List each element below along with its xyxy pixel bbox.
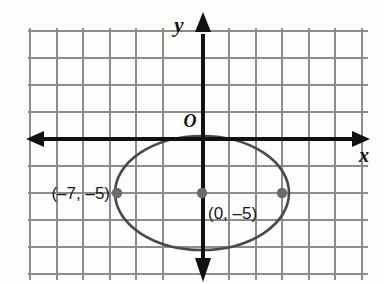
horizontal-gridlines [28,31,368,274]
axes [26,12,370,282]
y-axis-label: y [171,13,184,37]
y-axis-up-arrow-icon [195,12,211,32]
vertical-gridlines [30,28,362,280]
point-marker-left[interactable] [112,188,122,198]
origin-label: O [184,111,197,131]
coordinate-plane-figure: y x O (–7, –5) (0, –5) [0,0,384,284]
x-axis-label: x [358,144,369,166]
x-axis-left-arrow-icon [26,131,44,147]
point-marker-right[interactable] [277,188,287,198]
graph-canvas: y x O (–7, –5) (0, –5) [0,0,384,284]
point-marker-center[interactable] [197,188,207,198]
point-label-center: (0, –5) [208,204,257,223]
grid-lines [28,28,368,280]
y-axis-down-arrow-icon [195,258,211,282]
point-label-left: (–7, –5) [51,184,110,203]
